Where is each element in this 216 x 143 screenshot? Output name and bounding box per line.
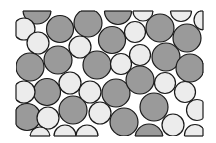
white-circle [130, 45, 151, 66]
gray-circle [135, 124, 163, 142]
gray-circle [59, 96, 87, 124]
gray-circle [74, 9, 102, 37]
gray-circle [146, 14, 174, 42]
white-circle [125, 22, 146, 43]
gray-circle [176, 54, 204, 82]
white-circle [30, 127, 50, 142]
white-circle [59, 72, 81, 94]
white-circle [37, 107, 59, 129]
white-circle [27, 32, 49, 54]
white-circle [187, 100, 208, 121]
white-circle [155, 73, 176, 94]
gray-circle [126, 66, 154, 94]
white-circle [162, 114, 184, 136]
white-circle [175, 82, 196, 103]
white-circle [185, 125, 206, 143]
gray-circle [44, 46, 72, 74]
white-circle [54, 125, 76, 142]
white-circle [76, 125, 98, 142]
gray-circle [110, 108, 138, 136]
white-circle [194, 10, 214, 30]
white-circle [89, 102, 111, 124]
gray-circle [83, 51, 111, 79]
gray-circle [99, 27, 126, 54]
gray-circle [34, 79, 61, 106]
gray-circle [16, 53, 44, 81]
gray-circle [140, 93, 168, 121]
circle-packing-diagram [0, 0, 216, 142]
circle-group [13, 0, 214, 142]
gray-circle [47, 16, 74, 43]
gray-circle [105, 0, 132, 25]
